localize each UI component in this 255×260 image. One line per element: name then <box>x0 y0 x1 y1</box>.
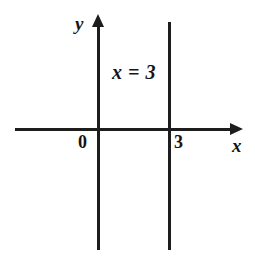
x-axis-arrow-icon <box>230 123 243 135</box>
x-tick-label-3: 3 <box>174 133 183 151</box>
plotted-vertical-line <box>168 22 171 250</box>
y-axis-line <box>97 22 100 250</box>
graph-figure: y x 0 3 x = 3 <box>0 0 255 260</box>
x-axis-line <box>15 128 236 131</box>
equation-annotation: x = 3 <box>112 62 156 82</box>
x-axis-label: x <box>232 136 242 155</box>
y-axis-label: y <box>75 14 83 33</box>
origin-tick-label: 0 <box>78 133 87 151</box>
y-axis-arrow-icon <box>92 14 104 27</box>
